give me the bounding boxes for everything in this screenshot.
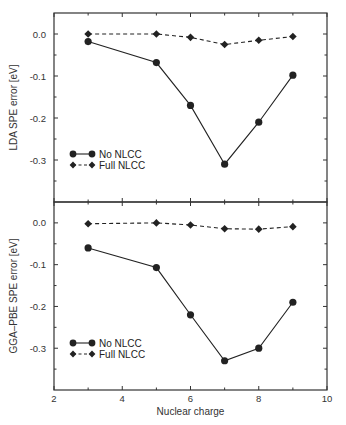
- legend-label-full-nlcc: Full NLCC: [99, 160, 145, 171]
- y-tick-label: -0.1: [30, 71, 46, 82]
- legend-label-full-nlcc: Full NLCC: [99, 349, 145, 360]
- data-point: [153, 264, 160, 271]
- data-point: [187, 34, 195, 42]
- data-point: [221, 41, 229, 49]
- data-point: [85, 38, 92, 45]
- data-point: [289, 33, 297, 41]
- data-point: [84, 220, 92, 228]
- data-point: [289, 299, 296, 306]
- data-point: [221, 161, 228, 168]
- data-point: [255, 37, 263, 45]
- plot-frame: [54, 202, 327, 390]
- chart-canvas: 0.0-0.1-0.2-0.3LDA SPE error [eV]No NLCC…: [0, 0, 346, 425]
- x-tick-label: 4: [120, 393, 125, 404]
- y-axis-label: LDA SPE error [eV]: [8, 64, 19, 150]
- data-point: [289, 72, 296, 79]
- data-point: [153, 30, 161, 38]
- y-tick-label: 0.0: [33, 217, 46, 228]
- y-axis-label: GGA–PBE SPE error [eV]: [8, 238, 19, 353]
- data-point: [255, 345, 262, 352]
- panel-bottom: 0.0-0.1-0.2-0.3246810Nuclear chargeGGA–P…: [8, 202, 332, 417]
- data-point: [221, 357, 228, 364]
- x-tick-label: 6: [188, 393, 193, 404]
- y-tick-label: -0.2: [30, 113, 46, 124]
- data-point: [255, 225, 263, 233]
- data-point: [153, 59, 160, 66]
- panel-top: 0.0-0.1-0.2-0.3LDA SPE error [eV]No NLCC…: [8, 13, 327, 202]
- y-tick-label: -0.3: [30, 155, 46, 166]
- data-point: [153, 219, 161, 227]
- x-axis-label: Nuclear charge: [157, 406, 225, 417]
- legend-label-no-nlcc: No NLCC: [99, 149, 142, 160]
- x-tick-label: 2: [51, 393, 56, 404]
- legend: No NLCCFull NLCC: [70, 149, 146, 171]
- y-tick-label: -0.3: [30, 343, 46, 354]
- y-tick-label: -0.2: [30, 301, 46, 312]
- data-point: [289, 223, 297, 231]
- data-point: [255, 119, 262, 126]
- x-tick-label: 8: [256, 393, 261, 404]
- data-point: [221, 225, 229, 233]
- data-point: [85, 244, 92, 251]
- series-full-nlcc: [84, 30, 296, 48]
- legend-label-no-nlcc: No NLCC: [99, 338, 142, 349]
- y-tick-label: 0.0: [33, 29, 46, 40]
- legend: No NLCCFull NLCC: [70, 338, 146, 360]
- data-point: [187, 311, 194, 318]
- data-point: [187, 221, 195, 229]
- series-full-nlcc: [84, 219, 296, 233]
- x-tick-label: 10: [322, 393, 333, 404]
- y-tick-label: -0.1: [30, 259, 46, 270]
- data-point: [84, 30, 92, 38]
- data-point: [187, 102, 194, 109]
